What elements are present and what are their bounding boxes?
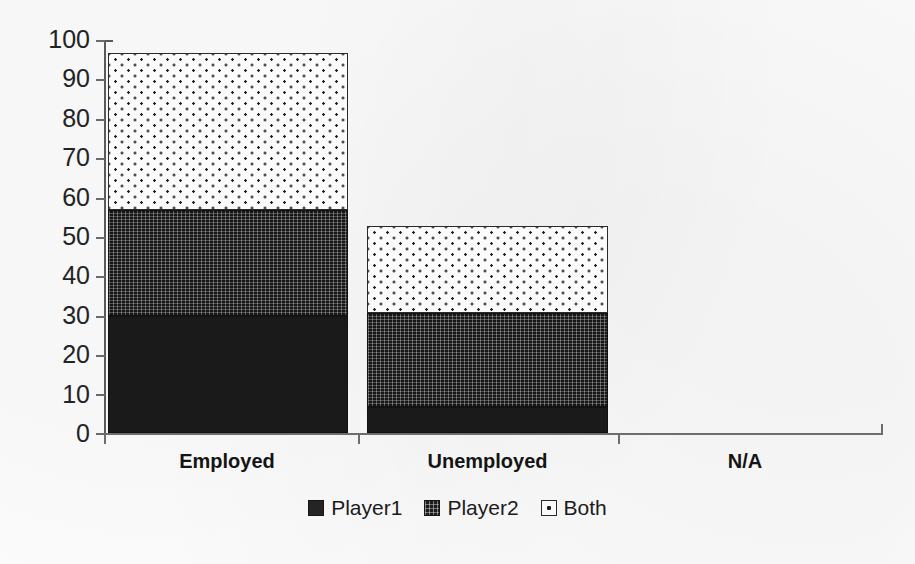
y-axis-label-30: 30 [16, 303, 90, 328]
x-axis-category-label-unemployed: Unemployed [405, 450, 570, 473]
y-axis-label-70: 70 [16, 145, 90, 170]
legend-item-both[interactable]: Both [541, 497, 607, 518]
y-axis-tick-40 [96, 276, 105, 278]
x-axis-line [104, 433, 883, 435]
y-axis-label-10: 10 [16, 382, 90, 407]
bar-segment-employed-player1[interactable] [108, 316, 348, 433]
y-axis-label-80: 80 [16, 106, 90, 131]
legend-swatch-both-icon [541, 500, 557, 516]
x-axis-tick-start [104, 434, 106, 444]
legend-item-player2[interactable]: Player2 [424, 497, 518, 518]
y-axis-tick-60 [96, 198, 105, 200]
y-axis-label-20: 20 [16, 342, 90, 367]
bar-unemployed[interactable] [367, 226, 608, 433]
legend-label-player1: Player1 [331, 497, 402, 518]
y-axis-tick-100 [96, 40, 105, 42]
y-axis-label-0: 0 [16, 421, 90, 446]
y-axis-tick-80 [96, 119, 105, 121]
y-axis-label-60: 60 [16, 185, 90, 210]
bar-segment-unemployed-both[interactable] [367, 226, 608, 313]
legend-swatch-player2-icon [424, 500, 440, 516]
legend: Player1 Player2 Both [0, 497, 915, 518]
x-axis-category-label-na: N/A [700, 450, 790, 473]
y-axis-tick-50 [96, 237, 105, 239]
bar-segment-employed-player2[interactable] [108, 210, 348, 316]
y-axis-label-90: 90 [16, 66, 90, 91]
bar-segment-employed-both[interactable] [108, 53, 348, 210]
y-axis-tick-30 [96, 316, 105, 318]
y-axis-tick-70 [96, 158, 105, 160]
legend-label-both: Both [564, 497, 607, 518]
legend-item-player1[interactable]: Player1 [308, 497, 402, 518]
x-axis-tick-1 [358, 434, 360, 444]
legend-label-player2: Player2 [447, 497, 518, 518]
x-axis-end-cap [881, 424, 883, 435]
y-axis-tick-20 [96, 355, 105, 357]
plot-area: 100 90 80 70 60 50 40 30 20 10 0 [0, 0, 915, 564]
y-axis-top-cap [104, 40, 113, 42]
bar-employed[interactable] [108, 53, 348, 433]
x-axis-tick-2 [618, 434, 620, 444]
bar-segment-unemployed-player2[interactable] [367, 313, 608, 407]
x-axis-category-label-employed: Employed [157, 450, 297, 473]
legend-swatch-player1-icon [308, 500, 324, 516]
bar-segment-unemployed-player1[interactable] [367, 407, 608, 433]
y-axis-tick-90 [96, 79, 105, 81]
y-axis-label-100: 100 [16, 27, 90, 52]
y-axis-label-40: 40 [16, 263, 90, 288]
y-axis-label-50: 50 [16, 224, 90, 249]
y-axis-tick-10 [96, 394, 105, 396]
chart-container: 100 90 80 70 60 50 40 30 20 10 0 [0, 0, 915, 564]
